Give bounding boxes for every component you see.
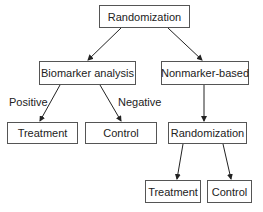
edge-label-negative: Negative [118, 96, 161, 108]
node-label: Randomization [108, 11, 181, 23]
node-label: Control [103, 127, 138, 139]
node-label: Treatment [148, 186, 198, 198]
node-label: Randomization [171, 127, 244, 139]
node-label: Biomarker analysis [41, 67, 134, 79]
node-label: Control [212, 186, 247, 198]
node-biomarker-analysis: Biomarker analysis [39, 61, 136, 85]
node-nonmarker-control: Control [207, 180, 252, 203]
node-nonmarker-randomization: Randomization [168, 122, 247, 144]
node-label: Nonmarker-based [161, 67, 249, 79]
node-biomarker-control: Control [85, 122, 157, 144]
node-randomization-root: Randomization [99, 5, 190, 28]
edge-label-positive: Positive [9, 96, 48, 108]
node-label: Treatment [18, 127, 68, 139]
node-nonmarker-treatment: Treatment [145, 180, 201, 203]
node-nonmarker-based: Nonmarker-based [161, 61, 249, 85]
node-biomarker-treatment: Treatment [7, 122, 78, 144]
